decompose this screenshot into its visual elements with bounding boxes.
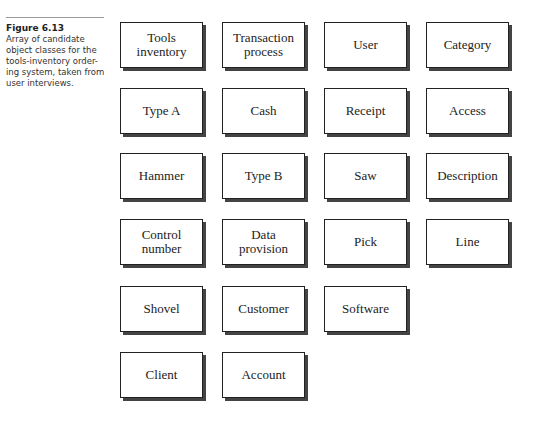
class-box-type-b: Type B (222, 153, 305, 199)
class-box-cash: Cash (222, 88, 305, 134)
class-box-access: Access (426, 88, 509, 134)
caption-divider (6, 17, 104, 18)
class-box-pick: Pick (324, 219, 407, 265)
class-box-description: Description (426, 153, 509, 199)
figure-description: Array of candidate object classes for th… (6, 34, 106, 89)
class-box-user: User (324, 22, 407, 68)
class-box-category: Category (426, 22, 509, 68)
class-box-shovel: Shovel (120, 286, 203, 332)
class-box-type-a: Type A (120, 88, 203, 134)
class-box-account: Account (222, 352, 305, 398)
class-box-software: Software (324, 286, 407, 332)
class-box-tools-inventory: Tools inventory (120, 22, 203, 68)
class-box-line: Line (426, 219, 509, 265)
class-box-control-number: Control number (120, 219, 203, 265)
figure-caption: Figure 6.13 Array of candidate object cl… (6, 17, 106, 89)
class-box-customer: Customer (222, 286, 305, 332)
class-box-transaction-process: Transaction process (222, 22, 305, 68)
class-box-hammer: Hammer (120, 153, 203, 199)
figure-label: Figure 6.13 (6, 23, 106, 34)
class-box-saw: Saw (324, 153, 407, 199)
class-box-receipt: Receipt (324, 88, 407, 134)
class-box-client: Client (120, 352, 203, 398)
class-box-data-provision: Data provision (222, 219, 305, 265)
